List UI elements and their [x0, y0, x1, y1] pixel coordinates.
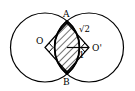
label-o-prime: O' — [92, 43, 102, 53]
label-b: B — [63, 77, 70, 87]
point-b — [66, 71, 69, 74]
label-o: O — [36, 36, 43, 46]
point-a — [66, 22, 69, 25]
right-angle-mark-o — [49, 43, 53, 52]
label-a: A — [62, 9, 70, 19]
label-one: 1 — [79, 50, 84, 60]
geometry-diagram: A B O O' √2 1 — [0, 0, 135, 91]
diagram-svg: A B O O' √2 1 — [0, 0, 135, 91]
label-sqrt2: √2 — [79, 24, 90, 34]
